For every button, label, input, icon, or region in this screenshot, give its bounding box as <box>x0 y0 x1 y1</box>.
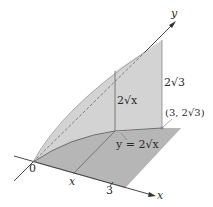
curve-label: y = 2√x <box>116 139 159 150</box>
point-label: (3, 2√3) <box>165 108 205 118</box>
cross-section <box>115 40 162 132</box>
height-at-x-label: 2√x <box>117 95 137 106</box>
x-tick-label: x <box>69 176 75 187</box>
x-axis-label: x <box>157 190 163 201</box>
y-axis-label: y <box>171 8 177 19</box>
solid-diagram <box>0 0 213 207</box>
height-at-3-label: 2√3 <box>164 77 185 88</box>
three-tick-label: 3 <box>106 185 113 196</box>
x-axis-arrow-icon <box>148 192 156 197</box>
origin-label: 0 <box>29 163 36 174</box>
point-leader <box>163 119 172 127</box>
